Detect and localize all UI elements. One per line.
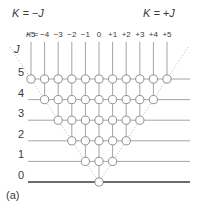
j-tick-label: 2 [8, 129, 24, 140]
state-node [149, 75, 157, 83]
state-node [109, 157, 117, 165]
state-node [95, 116, 103, 124]
state-node [109, 116, 117, 124]
state-node [41, 75, 49, 83]
j-tick-label: 3 [8, 108, 24, 119]
state-node [27, 75, 35, 83]
j-tick-label: 1 [8, 149, 24, 160]
state-node [68, 96, 76, 104]
state-node [109, 75, 117, 83]
state-node [68, 116, 76, 124]
j-tick-label: 5 [8, 67, 24, 78]
state-node [122, 75, 130, 83]
right-boundary-label: K = +J [143, 8, 175, 19]
energy-level-figure: K = −J K = +J K = J −5−4−3−2−10+1+2+3+4+… [0, 0, 198, 208]
state-node [81, 116, 89, 124]
state-node [41, 96, 49, 104]
state-node [81, 96, 89, 104]
state-node [136, 96, 144, 104]
state-node [122, 96, 130, 104]
state-node [81, 137, 89, 145]
j-axis-label: J [14, 44, 20, 55]
state-node [54, 116, 62, 124]
state-node [163, 75, 171, 83]
state-node [149, 96, 157, 104]
state-node [95, 96, 103, 104]
state-node [95, 75, 103, 83]
state-node [54, 75, 62, 83]
j-tick-label: 0 [8, 170, 24, 181]
panel-label: (a) [6, 190, 19, 201]
state-node [95, 178, 103, 186]
state-node [81, 75, 89, 83]
k-tick-label: +5 [158, 31, 176, 39]
state-node [81, 157, 89, 165]
state-node [68, 137, 76, 145]
state-node [136, 75, 144, 83]
state-node [54, 96, 62, 104]
state-node [109, 96, 117, 104]
state-node [68, 75, 76, 83]
j-tick-label: 4 [8, 88, 24, 99]
state-node [136, 116, 144, 124]
state-node [95, 137, 103, 145]
state-node [122, 116, 130, 124]
left-boundary-label: K = −J [12, 8, 44, 19]
state-node [122, 137, 130, 145]
state-node [95, 157, 103, 165]
state-node [109, 137, 117, 145]
